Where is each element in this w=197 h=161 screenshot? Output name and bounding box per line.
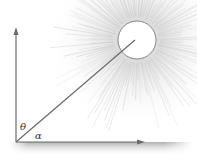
elevation-angle-label: α xyxy=(35,130,42,141)
zenith-arrowhead-icon xyxy=(14,27,19,35)
sun xyxy=(118,21,156,59)
zenith-angle-label: θ xyxy=(20,121,26,132)
ground-fade xyxy=(10,142,192,156)
sun-angle-diagram: θ α xyxy=(0,0,197,161)
